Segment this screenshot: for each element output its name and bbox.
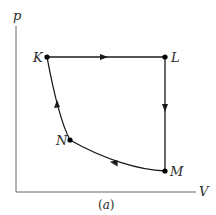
- point-k-label: K: [32, 50, 44, 65]
- arrow-m-to-n-icon: [110, 160, 119, 167]
- point-l: [162, 54, 167, 59]
- point-n: [67, 137, 72, 142]
- pv-diagram: p V K L M N (a): [0, 0, 216, 215]
- point-m: [162, 168, 167, 173]
- path-n-to-k: [47, 57, 70, 140]
- point-k: [44, 54, 49, 59]
- path-m-to-n: [70, 140, 165, 171]
- arrow-k-to-l-icon: [100, 54, 108, 60]
- y-axis-label: p: [13, 8, 22, 23]
- point-l-label: L: [170, 50, 180, 65]
- point-m-label: M: [169, 164, 184, 179]
- point-n-label: N: [55, 133, 68, 148]
- figure-caption: (a): [98, 198, 115, 212]
- arrow-l-to-m-icon: [162, 104, 168, 112]
- x-axis-label: V: [199, 184, 210, 199]
- arrow-n-to-k-icon: [54, 100, 60, 108]
